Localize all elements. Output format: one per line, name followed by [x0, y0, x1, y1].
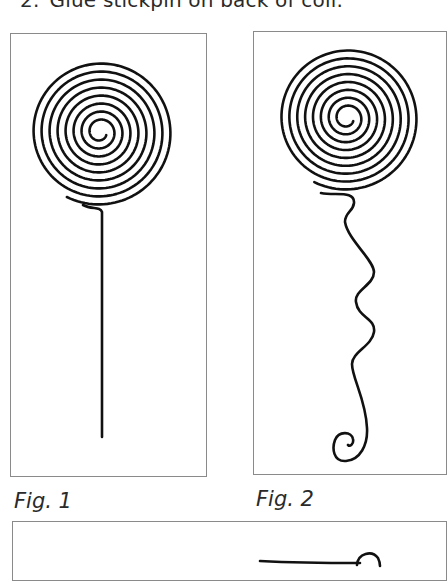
stickpin-shaft — [260, 561, 360, 563]
figure-2-spiral-coil — [282, 51, 417, 190]
figure-1-spiral-coil — [34, 64, 171, 205]
figure-2-wavy-stem — [321, 193, 374, 461]
figure-1-straight-stem — [83, 205, 102, 437]
